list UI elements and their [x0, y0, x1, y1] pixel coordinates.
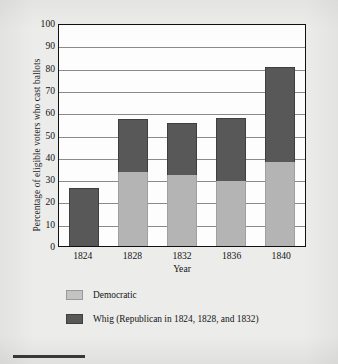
bar-group — [59, 25, 305, 246]
y-tick-label: 20 — [24, 198, 55, 208]
legend-label-democratic: Democratic — [93, 290, 137, 300]
legend-item-whig: Whig (Republican in 1824, 1828, and 1832… — [66, 313, 326, 325]
y-tick-label: 80 — [24, 64, 55, 74]
plot-area — [58, 24, 306, 247]
y-tick-label: 90 — [24, 42, 55, 52]
chart-figure: Percentage of eligible voters who cast b… — [0, 0, 338, 364]
x-axis-tick-labels: 18241828183218361840 — [58, 250, 306, 264]
legend-swatch-democratic — [66, 290, 83, 300]
x-tick-label: 1824 — [63, 250, 103, 264]
x-axis-title: Year — [58, 263, 306, 274]
bar-column — [167, 25, 197, 246]
x-tick-label: 1840 — [261, 250, 301, 264]
bar-segment-democratic — [167, 175, 197, 246]
bar-column — [118, 25, 148, 246]
legend-label-whig: Whig (Republican in 1824, 1828, and 1832… — [93, 314, 259, 324]
bar-segment-whig — [216, 118, 246, 182]
bar-segment-whig — [265, 67, 295, 163]
bar-segment-whig — [69, 188, 99, 246]
bar-segment-democratic — [265, 162, 295, 246]
x-tick-label: 1828 — [112, 250, 152, 264]
bar-segment-democratic — [118, 172, 148, 246]
y-tick-label: 40 — [24, 153, 55, 163]
bar-column — [69, 25, 99, 246]
bar-segment-whig — [167, 123, 197, 174]
bar-column — [265, 25, 295, 246]
y-tick-label: 10 — [24, 220, 55, 230]
y-tick-label: 30 — [24, 175, 55, 185]
bar-column — [216, 25, 246, 246]
x-tick-label: 1836 — [212, 250, 252, 264]
bar-segment-whig — [118, 119, 148, 173]
y-tick-label: 60 — [24, 108, 55, 118]
chart-legend: Democratic Whig (Republican in 1824, 182… — [66, 289, 326, 337]
bottom-rule — [13, 355, 85, 358]
legend-item-democratic: Democratic — [66, 289, 326, 301]
y-tick-label: 50 — [24, 131, 55, 141]
x-tick-label: 1832 — [162, 250, 202, 264]
y-axis-tick-labels: 0102030405060708090100 — [24, 24, 55, 247]
legend-swatch-whig — [66, 314, 83, 324]
y-tick-label: 0 — [24, 242, 55, 252]
y-tick-label: 70 — [24, 86, 55, 96]
y-tick-label: 100 — [24, 19, 55, 29]
bar-segment-democratic — [216, 181, 246, 246]
